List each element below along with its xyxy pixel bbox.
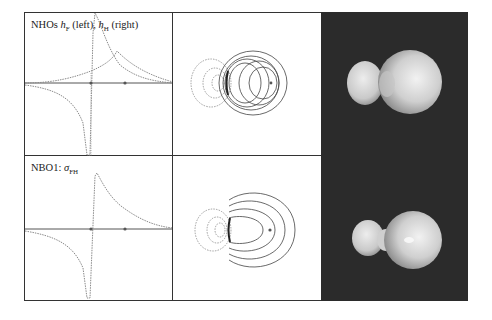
isosurface-panel bbox=[321, 12, 468, 301]
nho-contour-panel bbox=[172, 12, 321, 156]
negative-contours bbox=[195, 209, 231, 251]
positive-contours bbox=[219, 51, 287, 115]
nbo-contour-panel bbox=[172, 156, 321, 301]
nho-isosurface bbox=[347, 50, 442, 114]
nho-contour-plot bbox=[173, 13, 322, 157]
nbo-profile-plot bbox=[25, 156, 173, 301]
orbital-figure: NHOs hF (left), hH (right) NBO1: σFH bbox=[24, 12, 468, 301]
nho-profile-panel: NHOs hF (left), hH (right) bbox=[24, 12, 172, 156]
hydrogen-nucleus-marker bbox=[268, 228, 271, 231]
hydrogen-nucleus-marker bbox=[123, 227, 126, 230]
nho-profile-plot bbox=[25, 13, 173, 157]
nbo-contour-plot bbox=[173, 156, 322, 301]
nbo-isosurface bbox=[352, 211, 442, 269]
fluorine-nucleus-marker bbox=[89, 81, 92, 84]
isosurface-renderings bbox=[321, 12, 468, 301]
hydrogen-nucleus-marker bbox=[270, 82, 273, 85]
nbo-panel-label: NBO1: σFH bbox=[31, 162, 78, 176]
fluorine-nucleus-marker bbox=[89, 227, 92, 230]
positive-contours bbox=[229, 193, 295, 267]
nho-panel-label: NHOs hF (left), hH (right) bbox=[31, 19, 138, 33]
nbo-profile-panel: NBO1: σFH bbox=[24, 156, 172, 301]
hydrogen-nucleus-marker bbox=[123, 81, 126, 84]
